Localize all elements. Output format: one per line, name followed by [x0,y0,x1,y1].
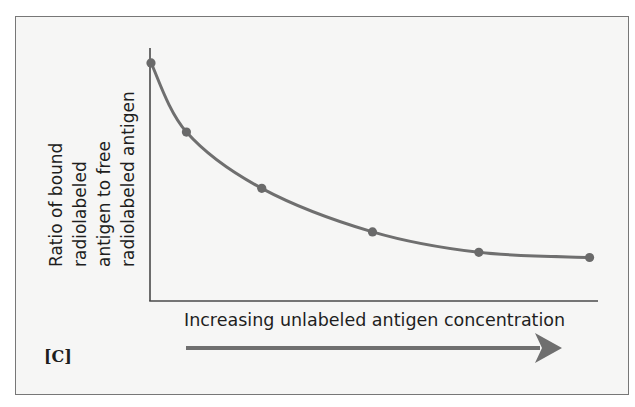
x-axis-label: Increasing unlabeled antigen concentrati… [184,310,565,330]
y-axis-label-line-2: radiolabeled [70,161,90,267]
y-axis-label-line-3: antigen to free [94,141,114,267]
panel-label: [C] [44,347,72,366]
chart-canvas: Increasing unlabeled antigen concentrati… [0,0,635,407]
y-axis-label: Ratio of bound radiolabeled antigen to f… [46,91,138,267]
data-point [585,253,594,262]
increasing-arrow-icon [186,333,562,363]
data-point [182,127,191,136]
y-axis-label-line-1: Ratio of bound [46,143,66,267]
data-point [368,227,377,236]
data-point [146,58,155,67]
y-axis-label-line-4: radiolabeled antigen [118,91,138,267]
data-point [257,184,266,193]
series-layer [146,58,594,262]
data-point [474,248,483,257]
